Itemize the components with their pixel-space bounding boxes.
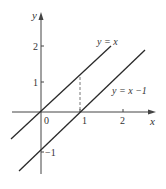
x-tick-2: 2 (120, 115, 125, 126)
y-tick-2: 2 (33, 41, 38, 52)
x-axis (12, 110, 156, 115)
y-axis-label: y (31, 9, 37, 21)
y-tick-1: 1 (33, 77, 38, 88)
line-y-equals-x (11, 46, 111, 139)
coordinate-diagram: y x 0 1 2 2 1 −1 y = x y = x −1 (0, 0, 166, 189)
x-axis-arrow-icon (148, 110, 156, 115)
line-y-equals-x-minus-1 (19, 50, 145, 171)
y-tick-minus-1: −1 (45, 147, 56, 158)
origin-label: 0 (44, 115, 49, 126)
label-y-equals-x: y = x (96, 36, 118, 47)
label-y-equals-x-minus-1: y = x −1 (111, 85, 147, 96)
x-axis-label: x (149, 115, 155, 127)
y-axis-arrow-icon (39, 12, 44, 20)
x-tick-1: 1 (82, 115, 87, 126)
